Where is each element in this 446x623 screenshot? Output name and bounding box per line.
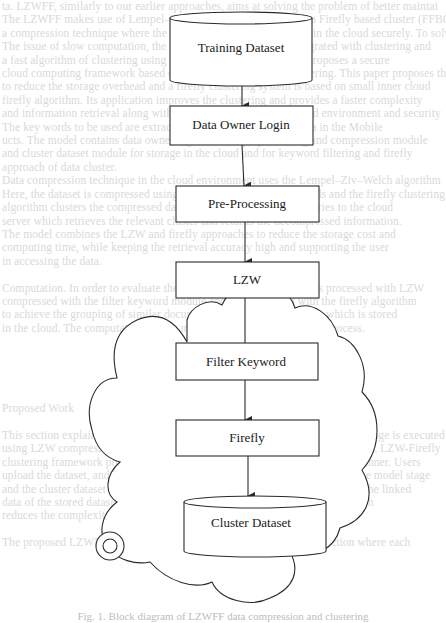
node-cluster-dataset: Cluster Dataset bbox=[184, 496, 326, 557]
label-cluster-dataset: Cluster Dataset bbox=[211, 515, 291, 530]
label-firefly: Firefly bbox=[229, 430, 265, 445]
label-data-owner-login: Data Owner Login bbox=[192, 117, 290, 132]
edge-login-to-preprocessing bbox=[242, 145, 244, 186]
figure-caption: Fig. 1. Block diagram of LZWFF data comp… bbox=[0, 610, 446, 622]
label-filter-keyword: Filter Keyword bbox=[206, 354, 286, 369]
thought-bubble-inner bbox=[103, 539, 117, 553]
node-pre-processing: Pre-Processing bbox=[176, 186, 319, 222]
flow-diagram: Training Dataset Data Owner Login Pre-Pr… bbox=[0, 0, 446, 623]
node-lzw: LZW bbox=[176, 262, 319, 298]
label-pre-processing: Pre-Processing bbox=[208, 196, 286, 211]
label-training-dataset: Training Dataset bbox=[198, 40, 285, 55]
node-data-owner-login: Data Owner Login bbox=[170, 106, 313, 145]
label-lzw: LZW bbox=[233, 272, 262, 287]
node-firefly: Firefly bbox=[176, 420, 319, 456]
node-filter-keyword: Filter Keyword bbox=[176, 343, 318, 380]
node-training-dataset: Training Dataset bbox=[170, 12, 312, 86]
